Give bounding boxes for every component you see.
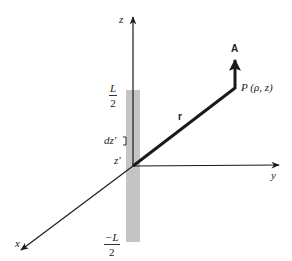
lower-limit-label: −L 2 (104, 232, 120, 258)
z-axis-label: z (119, 14, 123, 25)
lower-limit-denominator: 2 (104, 245, 120, 258)
upper-limit-denominator: 2 (109, 96, 117, 109)
dz-bracket (123, 137, 126, 145)
a-vector-label: A (231, 44, 238, 54)
diagram-svg (0, 0, 292, 261)
upper-limit-label: L 2 (109, 83, 117, 109)
y-axis (133, 165, 279, 166)
lower-limit-numerator: −L (104, 232, 120, 245)
z-prime-label: z' (114, 155, 121, 166)
r-vector (133, 88, 235, 166)
dz-prime-label: dz' (104, 135, 116, 146)
r-vector-label: r (178, 112, 182, 122)
upper-limit-numerator: L (109, 83, 117, 96)
x-axis-label: x (15, 238, 20, 249)
diagram-canvas: z y x L 2 dz' z' −L 2 r A P (ρ, z) (0, 0, 292, 261)
point-p-label: P (ρ, z) (241, 82, 273, 93)
y-axis-label: y (271, 170, 276, 181)
